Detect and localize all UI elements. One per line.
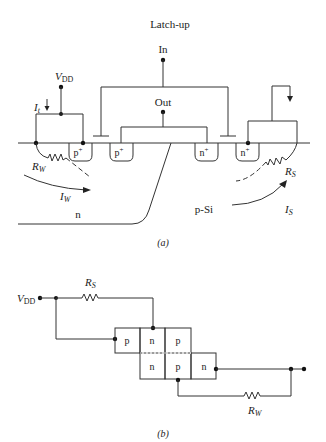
vss-arrow-icon: [287, 96, 293, 102]
rs-resistor-b-icon: [82, 294, 98, 301]
cell-label: n: [150, 335, 155, 346]
rw-lead: [36, 143, 48, 158]
rs-dashed-path: [236, 162, 266, 181]
n-well-label: n: [75, 208, 81, 220]
cell-label: p: [176, 335, 181, 346]
cell-label: p: [125, 335, 130, 346]
caption-b: (b): [157, 428, 169, 440]
iw-label: IW: [59, 190, 72, 204]
is-label: IS: [284, 203, 293, 217]
out-label: Out: [155, 96, 172, 108]
vdd-label-b: VDD: [17, 292, 36, 306]
part-a-cross-section: In Out VDD It p+ p+ n+: [18, 43, 310, 249]
rw-resistor-icon: [48, 154, 66, 161]
caption-a: (a): [157, 237, 169, 249]
cell-label: n: [202, 361, 207, 372]
p-plus-label-2: p+: [115, 146, 124, 158]
cell-label: p: [176, 361, 181, 372]
latch-up-diagram: Latch-up In Out VDD It p+: [0, 0, 326, 442]
vdd-wiring: [36, 114, 83, 143]
cell-label: n: [150, 361, 155, 372]
part-b-equivalent: VDD RS p n p n p n: [17, 276, 306, 440]
output-wiring: [121, 127, 207, 143]
vss-wiring: [248, 121, 297, 143]
in-label: In: [158, 43, 168, 55]
p-si-label: p-Si: [195, 203, 213, 215]
vdd-label: VDD: [55, 70, 74, 84]
vss-return: [272, 86, 290, 121]
gate-wiring: [101, 87, 228, 133]
rw-resistor-b-icon: [244, 392, 260, 399]
title: Latch-up: [150, 18, 190, 30]
rw-label-b: RW: [247, 404, 263, 418]
it-label: It: [33, 101, 41, 115]
n-well-boundary: [18, 143, 171, 224]
is-arrow: [232, 184, 283, 205]
n-plus-label-1: n+: [200, 146, 209, 158]
rs-label: RS: [284, 165, 296, 179]
rs-lead: [286, 143, 297, 160]
n-plus-label-2: n+: [241, 146, 250, 158]
iw-arrow: [24, 175, 86, 190]
rs-label-b: RS: [84, 276, 96, 290]
rs-resistor-icon: [266, 157, 286, 165]
p-plus-label-1: p+: [74, 146, 83, 158]
rw-label: RW: [31, 160, 47, 174]
